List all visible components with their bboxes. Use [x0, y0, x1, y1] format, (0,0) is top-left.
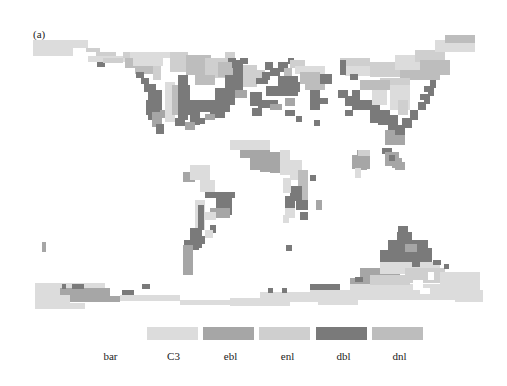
map-cell-dbl [285, 82, 300, 92]
map-cell-dbl [430, 80, 436, 88]
map-cell-dbl [424, 86, 430, 92]
legend-swatch-enl [259, 327, 310, 340]
map-cell-dbl [146, 100, 152, 115]
map-cell-dbl [320, 74, 332, 84]
map-cell-dbl [141, 78, 149, 84]
map-cell-C3 [133, 58, 163, 66]
map-cell-C3 [318, 300, 358, 305]
map-cell-dbl [142, 284, 150, 289]
map-cell-dbl [175, 120, 185, 126]
legend-label-dbl: dbl [314, 350, 374, 362]
map-cell-C3 [230, 140, 270, 150]
map-cell-dbl [444, 264, 449, 269]
map-cell-dbl [345, 110, 353, 116]
map-cell-C3 [455, 290, 483, 302]
map-cell-dbl [72, 284, 84, 289]
map-cell-enl [405, 268, 445, 283]
legend-swatch-bar [97, 327, 138, 340]
map-cell-ebl [405, 244, 417, 252]
map-cell-bar [428, 272, 434, 280]
map-cell-C3 [283, 178, 291, 193]
map-cell-enl [370, 275, 410, 285]
map-cell-dbl [282, 288, 287, 293]
map-cell-enl [243, 65, 257, 87]
map-cell-C3 [355, 168, 361, 178]
legend-label-ebl: ebl [201, 350, 261, 362]
map-cell-dbl [240, 58, 248, 64]
legend-swatch-dbl [316, 327, 367, 340]
map-cell-dbl [195, 236, 205, 244]
map-cell-dbl [62, 284, 66, 289]
map-cell-dbl [198, 205, 204, 230]
map-cell-dbl [122, 290, 134, 295]
map-cell-dbl [410, 110, 418, 120]
map-cell-dbl [352, 90, 360, 110]
legend-label-C3: C3 [144, 350, 204, 362]
map-cell-dnl [360, 80, 390, 90]
map-cell-ebl [395, 162, 405, 170]
map-cell-dbl [184, 85, 190, 115]
map-cell-C3 [280, 150, 290, 175]
map-cell-enl [358, 150, 370, 156]
map-cell-C3 [190, 165, 210, 180]
map-cell-ebl [352, 155, 370, 169]
map-cell-dbl [398, 226, 408, 234]
map-cell-dbl [350, 74, 358, 80]
map-cell-dbl [268, 288, 273, 293]
legend-label-enl: enl [258, 350, 318, 362]
map-cell-dbl [266, 86, 280, 96]
map-cell-dbl [300, 212, 308, 220]
map-cell-dbl [420, 94, 428, 100]
map-cell-dnl [218, 62, 233, 77]
map-cell-C3 [200, 180, 215, 192]
vegetation-map [0, 0, 507, 320]
map-cell-C3 [120, 295, 180, 301]
map-cell-dbl [310, 284, 340, 290]
map-cell-enl [398, 100, 408, 115]
map-cell-dbl [412, 262, 420, 267]
map-cell-dbl [296, 116, 302, 122]
map-cell-C3 [372, 90, 387, 105]
map-cell-dbl [156, 124, 164, 134]
legend-swatch-dnl [372, 327, 423, 340]
map-cell-dbl [340, 60, 346, 75]
legend-label-dnl: dnl [370, 350, 430, 362]
map-cell-C3 [35, 303, 85, 309]
map-cell-dbl [262, 72, 270, 80]
map-cell-dnl [195, 75, 215, 85]
map-cell-ebl [316, 200, 322, 210]
map-cell-C3 [195, 300, 235, 305]
map-cell-dbl [318, 98, 328, 104]
map-cell-ebl [60, 288, 110, 296]
map-cell-C3 [33, 48, 73, 56]
map-cell-dbl [233, 60, 243, 90]
legend-swatch-C3 [147, 327, 198, 340]
map-cell-dbl [252, 108, 262, 116]
map-cell-dnl [284, 68, 292, 76]
map-cell-C3 [33, 40, 88, 48]
map-cell-ebl [185, 122, 195, 130]
map-cell-enl [103, 58, 123, 63]
map-cell-ebl [270, 104, 282, 110]
map-cell-C3 [205, 230, 213, 238]
legend-swatch-ebl [203, 327, 254, 340]
map-cell-ebl [205, 114, 215, 120]
legend-label-bar: bar [81, 350, 141, 362]
map-cell-bar [420, 288, 430, 294]
map-cell-C3 [283, 215, 289, 223]
map-cell-dbl [433, 260, 441, 265]
map-cell-C3 [35, 295, 70, 303]
map-cell-dbl [314, 120, 320, 126]
map-cell-enl [86, 48, 100, 52]
map-cell-dbl [285, 110, 295, 116]
map-cell-enl [170, 52, 188, 72]
map-cell-dbl [296, 200, 308, 210]
map-cell-C3 [204, 212, 216, 220]
map-cell-ebl [42, 242, 46, 252]
map-cell-ebl [235, 90, 247, 98]
map-cell-ebl [285, 98, 295, 106]
map-cell-ebl [183, 245, 193, 275]
map-cell-dbl [195, 118, 205, 124]
map-cell-dbl [136, 72, 144, 78]
map-cell-dbl [355, 277, 363, 282]
